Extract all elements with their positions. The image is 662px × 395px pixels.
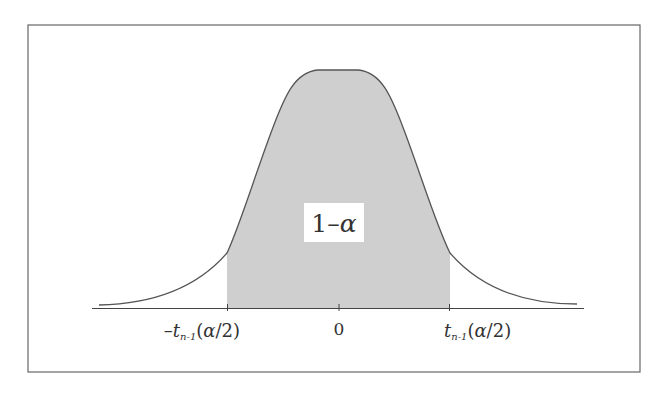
tick-label-neg: –tn-1(α/2): [164, 320, 240, 342]
area-label-main: 1–: [311, 209, 339, 238]
area-label: 1–α: [311, 209, 356, 238]
tick-label-zero: 0: [334, 319, 345, 339]
t-distribution-figure: 1–α –tn-1(α/2) 0 tn-1(α/2): [0, 0, 662, 395]
area-label-alpha: α: [340, 209, 357, 238]
